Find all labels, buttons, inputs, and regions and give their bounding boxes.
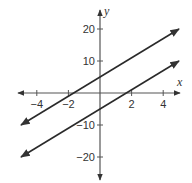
x-tick-label: −4 — [31, 98, 44, 110]
y-tick-label: 20 — [83, 23, 95, 35]
graph-canvas: −4−2242010−10−20 x y — [0, 0, 192, 183]
y-tick-label: 10 — [83, 55, 95, 67]
x-tick-label: 2 — [129, 98, 135, 110]
x-axis-label: x — [176, 75, 183, 89]
x-tick-label: 4 — [160, 98, 166, 110]
axes — [18, 10, 180, 180]
y-tick-label: −20 — [76, 151, 95, 163]
y-axis-label: y — [103, 4, 110, 18]
